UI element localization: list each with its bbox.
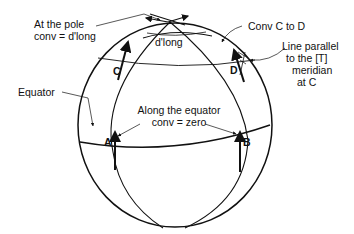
label-parallel-line3: meridian xyxy=(282,64,352,76)
label-dlong: d'long xyxy=(155,36,183,48)
label-along-line2: conv = zero xyxy=(124,116,234,128)
label-along-equator: Along the equator conv = zero xyxy=(124,104,234,128)
label-parallel-line2: to the [T] xyxy=(282,52,352,64)
point-b: B xyxy=(243,136,251,148)
label-parallel-line1: Line parallel xyxy=(282,40,352,52)
label-pole: At the pole conv = d'long xyxy=(34,18,96,42)
point-a: A xyxy=(104,136,112,148)
label-pole-line2: conv = d'long xyxy=(34,30,96,42)
label-equator: Equator xyxy=(18,86,55,98)
label-conv-cd: Conv C to D xyxy=(248,20,305,32)
leader-conv-cd xyxy=(222,26,242,42)
leader-parallel xyxy=(250,48,285,60)
label-parallel: Line parallel to the [T] meridian at C xyxy=(282,40,352,88)
label-along-line1: Along the equator xyxy=(124,104,234,116)
point-d: D xyxy=(230,64,238,76)
leader-pole xyxy=(96,14,160,26)
label-parallel-line4: at C xyxy=(282,76,352,88)
label-pole-line1: At the pole xyxy=(34,18,96,30)
point-c: C xyxy=(113,65,121,77)
